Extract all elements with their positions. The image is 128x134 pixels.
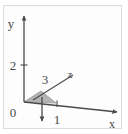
x-tick-label-1: 1 — [54, 112, 61, 127]
x-axis-line — [24, 102, 117, 112]
y-axis-label: y — [8, 16, 15, 31]
x-axis-label: x — [109, 117, 115, 131]
coordinate-diagram: y x z 0 2 3 1 — [0, 0, 128, 134]
z-tick-label-3: 3 — [42, 72, 49, 87]
shaded-triangle — [24, 91, 56, 103]
y-tick-label-2: 2 — [10, 58, 17, 73]
figure-root: y x z 0 2 3 1 — [0, 0, 128, 134]
origin-label-0: 0 — [10, 105, 17, 120]
z-axis-label: z — [68, 68, 73, 80]
